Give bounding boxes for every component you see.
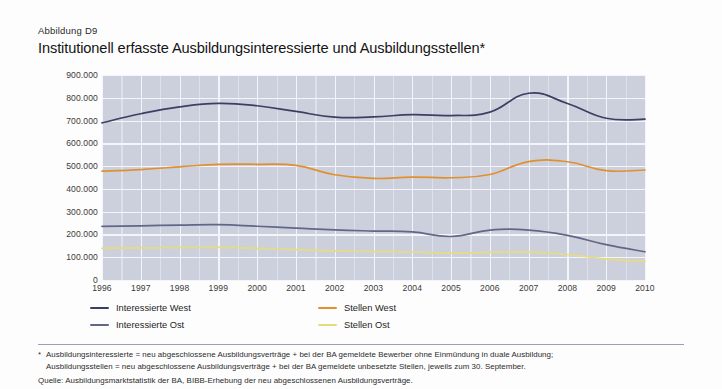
x-axis-tick-label: 2003	[364, 283, 384, 293]
gridline-vertical	[645, 75, 646, 280]
x-axis-tick-label: 2002	[325, 283, 345, 293]
legend-item: Stellen Ost	[318, 320, 389, 330]
y-axis-tick-label: 300.000	[38, 207, 98, 217]
legend-swatch-icon	[318, 324, 337, 326]
footnote-divider	[38, 344, 684, 345]
plot-area	[102, 75, 645, 280]
x-axis-tick-label: 1996	[92, 283, 112, 293]
x-axis-tick-label: 2009	[596, 283, 616, 293]
legend-label: Stellen West	[344, 303, 396, 313]
y-axis-labels: 0100.000200.000300.000400.000500.000600.…	[38, 70, 98, 285]
x-axis-tick-label: 2008	[558, 283, 578, 293]
x-axis-tick-label: 2010	[635, 283, 655, 293]
x-axis-tick-label: 2004	[403, 283, 423, 293]
series-line	[102, 247, 645, 261]
x-axis-tick-label: 1998	[170, 283, 190, 293]
y-axis-tick-label: 600.000	[38, 138, 98, 148]
series-line	[102, 160, 645, 179]
figure-title: Institutionell erfasste Ausbildungsinter…	[38, 40, 485, 56]
x-axis-tick-label: 1997	[131, 283, 151, 293]
x-axis-tick-label: 2006	[480, 283, 500, 293]
footnote-definition: * Ausbildungsinteressierte = neu abgesch…	[38, 349, 698, 373]
legend-item: Stellen West	[318, 303, 396, 313]
footnote-line-1: Ausbildungsinteressierte = neu abgeschlo…	[38, 349, 698, 361]
y-axis-tick-label: 800.000	[38, 93, 98, 103]
x-axis-tick-label: 1999	[209, 283, 229, 293]
y-axis-tick-label: 900.000	[38, 70, 98, 80]
x-axis-tick-label: 2001	[286, 283, 306, 293]
x-axis-labels: 1996199719981999200020012002200320042005…	[102, 283, 645, 299]
legend-swatch-icon	[90, 307, 109, 309]
legend-item: Interessierte Ost	[90, 320, 184, 330]
x-axis-tick-label: 2000	[247, 283, 267, 293]
figure-number: Abbildung D9	[38, 25, 97, 36]
y-axis-tick-label: 0	[38, 275, 98, 285]
legend-label: Interessierte West	[116, 303, 191, 313]
footnote-star-marker: *	[38, 349, 41, 361]
x-axis-tick-label: 2005	[441, 283, 461, 293]
y-axis-tick-label: 500.000	[38, 161, 98, 171]
gridline-horizontal	[102, 280, 645, 281]
legend-swatch-icon	[90, 324, 109, 326]
legend-label: Interessierte Ost	[116, 320, 184, 330]
series-line	[102, 93, 645, 123]
legend-swatch-icon	[318, 307, 337, 309]
y-axis-tick-label: 100.000	[38, 252, 98, 262]
footnote-line-2: Ausbildungsstellen = neu abgeschlossene …	[38, 361, 698, 373]
y-axis-tick-label: 700.000	[38, 116, 98, 126]
figure-panel: Abbildung D9 Institutionell erfasste Aus…	[0, 0, 722, 389]
x-axis-tick-label: 2007	[519, 283, 539, 293]
footnote-source: Quelle: Ausbildungsmarktstatistik der BA…	[38, 375, 698, 387]
y-axis-tick-label: 400.000	[38, 184, 98, 194]
legend-item: Interessierte West	[90, 303, 191, 313]
legend-label: Stellen Ost	[344, 320, 389, 330]
chart-legend: Interessierte WestStellen WestInteressie…	[90, 303, 520, 337]
series-lines	[102, 75, 645, 280]
y-axis-tick-label: 200.000	[38, 229, 98, 239]
